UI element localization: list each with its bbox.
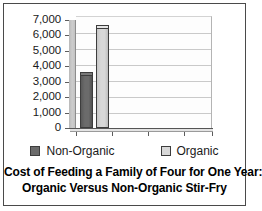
chart-title: Cost of Feeding a Family of Four for One…	[4, 164, 245, 196]
x-tick-mark	[184, 132, 185, 136]
bar-top-face	[80, 72, 93, 75]
legend-entry: Organic	[161, 144, 219, 158]
y-tick-label: 1,000	[33, 107, 61, 119]
y-tick-mark	[65, 66, 69, 67]
y-tick-mark	[65, 35, 69, 36]
y-tick-mark	[65, 97, 69, 98]
y-tick-mark	[65, 51, 69, 52]
chart-title-line-2: Organic Versus Non-Organic Stir-Fry	[4, 180, 245, 196]
legend-entry: Non-Organic	[30, 144, 114, 158]
bar-face	[80, 75, 93, 128]
bars-layer	[76, 16, 212, 128]
plot-left-wall	[69, 20, 76, 128]
y-tick-mark	[65, 20, 69, 21]
bar-non-organic	[80, 75, 93, 128]
y-axis: 7,0006,0005,0004,0003,0002,0001,0000	[4, 20, 65, 128]
legend-swatch-icon	[30, 146, 40, 156]
y-tick-label: 7,000	[33, 14, 61, 26]
bar-face	[96, 28, 109, 128]
bar-top-face	[96, 25, 109, 28]
plot-area: 7,0006,0005,0004,0003,0002,0001,0000	[4, 8, 245, 136]
x-tick-mark	[212, 132, 213, 136]
chart-title-line-1: Cost of Feeding a Family of Four for One…	[4, 164, 245, 180]
legend-label: Non-Organic	[46, 144, 114, 158]
y-tick-label: 5,000	[33, 45, 61, 57]
legend-swatch-icon	[161, 146, 171, 156]
x-tick-mark	[112, 132, 113, 136]
y-tick-label: 2,000	[33, 91, 61, 103]
x-tick-mark	[76, 132, 77, 136]
y-tick-mark	[65, 128, 69, 129]
chart-figure: 7,0006,0005,0004,0003,0002,0001,0000 Non…	[3, 3, 246, 206]
legend-label: Organic	[177, 144, 219, 158]
y-tick-label: 4,000	[33, 61, 61, 73]
y-tick-label: 6,000	[33, 30, 61, 42]
bar-organic	[96, 28, 109, 128]
y-tick-mark	[65, 113, 69, 114]
y-tick-label: 0	[55, 122, 61, 134]
plot-floor	[70, 129, 213, 132]
y-tick-label: 3,000	[33, 76, 61, 88]
y-tick-mark	[65, 82, 69, 83]
x-tick-mark	[148, 132, 149, 136]
chart-legend: Non-OrganicOrganic	[4, 142, 245, 160]
